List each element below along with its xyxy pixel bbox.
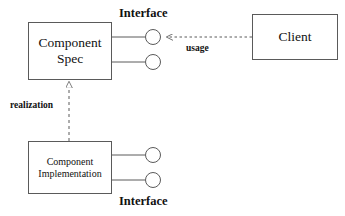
component-implementation-label: Component Implementation [36, 156, 103, 179]
interface-lollipop-icon[interactable] [145, 172, 161, 188]
interface-lollipop-icon[interactable] [145, 147, 161, 163]
uml-component-diagram: Component Spec Client Component Implemen… [0, 0, 345, 216]
client-label: Client [277, 29, 314, 45]
realization-edge-label: realization [10, 100, 53, 110]
interface-lollipop-icon[interactable] [145, 29, 161, 45]
usage-edge-label: usage [186, 43, 209, 53]
component-spec-label: Component Spec [37, 35, 104, 66]
interface-label-top: Interface [119, 6, 168, 21]
component-implementation-node[interactable]: Component Implementation [28, 141, 112, 194]
component-spec-node[interactable]: Component Spec [28, 22, 112, 80]
interface-label-bottom: Interface [119, 194, 168, 209]
interface-lollipop-icon[interactable] [145, 54, 161, 70]
client-node[interactable]: Client [252, 14, 338, 60]
